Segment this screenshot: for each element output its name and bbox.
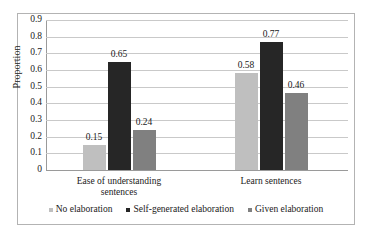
y-axis-tick-label: 0.8 (16, 32, 42, 42)
legend-label: Self-generated elaboration (133, 205, 234, 215)
bar (260, 42, 283, 170)
gridline (46, 37, 348, 38)
x-axis-category-label: Ease of understandingsentences (59, 176, 179, 198)
y-axis-tick-label: 0 (16, 165, 42, 175)
x-axis-category-label-line: Learn sentences (211, 176, 331, 187)
bar-value-label: 0.65 (100, 50, 139, 60)
legend-label: Given elaboration (255, 205, 323, 215)
chart-legend: No elaborationSelf-generated elaboration… (17, 203, 355, 217)
bar (133, 130, 156, 170)
y-axis-tick-label: 0.1 (16, 148, 42, 158)
chart-figure: Proportion 00.10.20.30.40.50.60.70.80.9 … (0, 0, 372, 247)
bar (83, 145, 106, 170)
gridline (46, 70, 348, 71)
legend-swatch-icon (126, 208, 130, 212)
x-axis-category-label-line: sentences (59, 187, 179, 198)
y-axis-tick-label: 0.3 (16, 115, 42, 125)
x-axis-category-label-line: Ease of understanding (59, 176, 179, 187)
bar (235, 73, 258, 170)
bar (108, 62, 131, 170)
y-axis-tick-label: 0.7 (16, 48, 42, 58)
bar (285, 93, 308, 170)
y-axis-tick-label: 0.2 (16, 132, 42, 142)
y-axis-tick-label: 0.6 (16, 65, 42, 75)
legend-item[interactable]: Self-generated elaboration (126, 205, 234, 215)
y-axis-tick-labels: 00.10.20.30.40.50.60.70.80.9 (14, 20, 42, 170)
x-axis-category-label: Learn sentences (211, 176, 331, 187)
bar-value-label: 0.46 (277, 81, 316, 91)
y-axis-tick-label: 0.9 (16, 15, 42, 25)
gridline (46, 53, 348, 54)
legend-swatch-icon (248, 208, 252, 212)
y-axis-tick-label: 0.4 (16, 98, 42, 108)
legend-label: No elaboration (56, 205, 113, 215)
bar-value-label: 0.77 (252, 30, 291, 40)
plot-area: 0.150.650.240.580.770.46 (46, 20, 348, 170)
y-axis-tick-label: 0.5 (16, 82, 42, 92)
legend-item[interactable]: Given elaboration (248, 205, 323, 215)
bar-value-label: 0.24 (125, 118, 164, 128)
gridline (46, 170, 348, 171)
legend-item[interactable]: No elaboration (49, 205, 113, 215)
gridline (46, 20, 348, 21)
legend-swatch-icon (49, 208, 53, 212)
